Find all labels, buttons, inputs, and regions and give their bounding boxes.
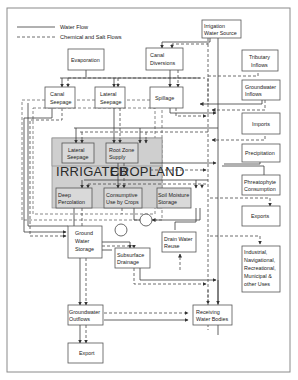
node-irrigation-source: Irrigation Water Source xyxy=(202,20,241,38)
node-root-zone-supply: Root Zone Supply xyxy=(106,143,138,163)
svg-text:Groundwater: Groundwater xyxy=(69,309,100,315)
svg-text:Percolation: Percolation xyxy=(58,199,85,205)
svg-text:Lateral: Lateral xyxy=(100,91,116,97)
svg-text:Canal: Canal xyxy=(150,52,164,58)
cropland-label-right: CROPLAND xyxy=(110,164,185,179)
node-industrial-uses: Industrial, Navigational, Recreational, … xyxy=(242,246,280,292)
svg-text:Consumptive: Consumptive xyxy=(106,192,137,198)
node-imports: Imports xyxy=(242,113,280,134)
svg-text:Imports: Imports xyxy=(252,121,270,127)
node-drain-water-reuse: Drain Water Reuse xyxy=(162,232,196,252)
node-ground-water-storage: Ground Water Storage xyxy=(68,226,102,258)
node-tributary-inflows: Tributary Inflows xyxy=(242,50,278,71)
svg-text:Municipal &: Municipal & xyxy=(244,273,272,279)
node-groundwater-outflows: Groundwater Outflows xyxy=(68,305,103,325)
svg-text:Groundwater: Groundwater xyxy=(245,84,276,90)
node-export: Export xyxy=(68,343,103,363)
node-lateral-seepage: Lateral Seepage xyxy=(62,143,94,163)
node-canal-diversions: Canal Diversions xyxy=(146,48,183,70)
svg-text:Exports: Exports xyxy=(251,213,270,219)
svg-text:Supply: Supply xyxy=(109,154,126,160)
svg-text:other Uses: other Uses xyxy=(244,281,270,287)
svg-text:Outflows: Outflows xyxy=(69,316,90,322)
svg-text:Inflows: Inflows xyxy=(251,62,268,68)
legend-water-label: Water Flow xyxy=(60,24,89,30)
svg-text:Soil Moisture: Soil Moisture xyxy=(158,192,189,198)
node-evaporation: Evaporation xyxy=(68,49,104,70)
svg-text:Water Source: Water Source xyxy=(204,30,237,36)
irrigation-flow-diagram: Water Flow Chemical and Salt Flows IRRIG… xyxy=(0,0,298,380)
svg-text:Deep: Deep xyxy=(58,192,71,198)
svg-text:Drain Water: Drain Water xyxy=(164,236,193,242)
node-groundwater-inflows: Groundwater Inflows xyxy=(242,80,280,100)
node-exports: Exports xyxy=(242,206,280,226)
legend-chemical-label: Chemical and Salt Flows xyxy=(60,34,122,40)
svg-text:Storage: Storage xyxy=(158,199,177,205)
mixing-junction-left xyxy=(115,224,127,236)
node-lateral-seepage-top: Lateral Seepage xyxy=(95,87,125,108)
svg-text:Navigational,: Navigational, xyxy=(244,257,276,263)
svg-text:Recreational,: Recreational, xyxy=(244,265,276,271)
node-canal-seepage: Canal Seepage xyxy=(45,87,75,108)
svg-text:Evaporation: Evaporation xyxy=(71,57,100,63)
mixing-junction-right xyxy=(140,214,152,226)
node-phreatophyte: Phreatophyte Consumption xyxy=(242,175,280,195)
svg-text:Water: Water xyxy=(75,238,89,244)
node-spillage: Spillage xyxy=(150,87,183,108)
svg-text:Use by Crops: Use by Crops xyxy=(106,199,139,205)
svg-text:Consumption: Consumption xyxy=(244,186,276,192)
svg-text:Water Bodies: Water Bodies xyxy=(196,316,228,322)
svg-text:Industrial,: Industrial, xyxy=(244,249,268,255)
svg-text:Seepage: Seepage xyxy=(100,99,122,105)
svg-text:Storage: Storage xyxy=(75,246,94,252)
svg-text:Root Zone: Root Zone xyxy=(109,147,134,153)
node-soil-moisture: Soil Moisture Storage xyxy=(157,188,191,208)
svg-text:Subsurface: Subsurface xyxy=(117,252,144,258)
svg-text:Irrigation: Irrigation xyxy=(204,23,225,29)
node-subsurface-drainage: Subsurface Drainage xyxy=(115,248,150,268)
svg-text:Phreatophyte: Phreatophyte xyxy=(244,179,276,185)
svg-text:Canal: Canal xyxy=(50,91,64,97)
svg-text:Precipitation: Precipitation xyxy=(245,150,275,156)
svg-text:Reuse: Reuse xyxy=(164,243,180,249)
svg-text:Receiving: Receiving xyxy=(196,309,220,315)
node-deep-percolation: Deep Percolation xyxy=(56,188,92,208)
svg-text:Tributary: Tributary xyxy=(249,54,270,60)
svg-text:Ground: Ground xyxy=(75,230,93,236)
node-consumptive-use: Consumptive Use by Crops xyxy=(104,188,142,208)
svg-text:Export: Export xyxy=(79,350,95,356)
svg-text:Inflows: Inflows xyxy=(245,91,262,97)
node-receiving-water-bodies: Receiving Water Bodies xyxy=(193,305,232,325)
node-precipitation: Precipitation xyxy=(242,144,280,162)
svg-text:Lateral: Lateral xyxy=(68,147,84,153)
svg-text:Drainage: Drainage xyxy=(117,259,139,265)
svg-text:Spillage: Spillage xyxy=(155,95,174,101)
svg-text:Diversions: Diversions xyxy=(150,60,175,66)
svg-text:Seepage: Seepage xyxy=(67,154,89,160)
svg-text:Seepage: Seepage xyxy=(50,99,72,105)
